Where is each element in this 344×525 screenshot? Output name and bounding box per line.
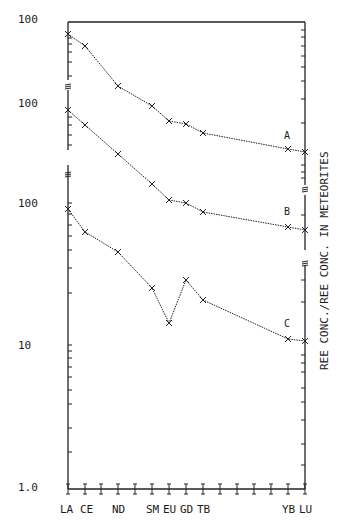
curve-label-b: B bbox=[284, 206, 290, 217]
x-label-sm: SM bbox=[146, 503, 159, 516]
series-c bbox=[68, 209, 305, 341]
y-label-1: 1.0 bbox=[18, 481, 38, 494]
y-label-a-100: 100 bbox=[18, 13, 38, 26]
y-axis-title: REE CONC./REE CONC. IN METEORITES bbox=[318, 151, 331, 370]
x-label-nd: ND bbox=[112, 503, 125, 516]
curve-label-c: C bbox=[284, 318, 290, 329]
ree-chart bbox=[0, 0, 344, 525]
y-label-c-100: 100 bbox=[18, 197, 38, 210]
x-label-tb: TB bbox=[197, 503, 210, 516]
series-a bbox=[68, 34, 305, 152]
x-label-eu: EU bbox=[163, 503, 176, 516]
x-label-ce: CE bbox=[80, 503, 93, 516]
series-b bbox=[68, 110, 305, 230]
x-label-gd: GD bbox=[180, 503, 193, 516]
axis-break-marks bbox=[65, 84, 308, 266]
curve-label-a: A bbox=[284, 130, 290, 141]
chart-frame bbox=[68, 22, 305, 489]
y-label-b-100: 100 bbox=[18, 97, 38, 110]
x-label-la: LA bbox=[60, 503, 73, 516]
x-label-lu: LU bbox=[299, 503, 312, 516]
y-label-10: 10 bbox=[18, 339, 31, 352]
x-label-yb: YB bbox=[282, 503, 295, 516]
data-markers bbox=[65, 31, 308, 344]
